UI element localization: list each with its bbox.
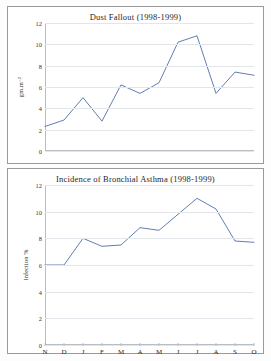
x-tick-mark [102,343,103,346]
dust-fallout-y-axis: 121086420 [22,23,44,151]
x-tick-mark [140,343,141,346]
month-tick-label: J [177,348,180,356]
asthma-chart-panel: Incidence of Bronchial Asthma (1998-1999… [7,168,264,354]
dust-fallout-chart-panel: Dust Fallout (1998-1999) gm.m⁻² 12108642… [7,6,264,164]
month-tick-label: M [118,348,124,356]
gridline [45,23,254,24]
x-tick-mark [178,343,179,346]
gridline [45,66,254,67]
gridline [45,318,254,319]
month-tick-label: S [233,348,237,356]
gridline [45,185,254,186]
gridline [45,130,254,131]
y-tick-label: 4 [22,105,44,112]
y-tick-label: 8 [22,235,44,242]
month-tick-label: A [137,348,142,356]
y-tick-label: 0 [22,148,44,155]
y-tick-label: 10 [22,208,44,215]
gridline [45,44,254,45]
asthma-y-axis: 121086420 [22,185,44,345]
x-tick-mark [83,343,84,346]
gridline [45,87,254,88]
y-tick-label: 6 [22,262,44,269]
x-tick-mark [197,343,198,346]
y-tick-label: 4 [22,288,44,295]
y-tick-label: 10 [22,41,44,48]
dust-fallout-plot [45,23,254,151]
asthma-plot-area: Infection % 121086420 [8,185,263,345]
x-tick-mark [121,343,122,346]
gridline [45,151,254,152]
figure-container: Dust Fallout (1998-1999) gm.m⁻² 12108642… [0,0,271,361]
asthma-plot [45,185,254,345]
gridline [45,238,254,239]
x-tick-mark [235,343,236,346]
x-tick-mark [159,343,160,346]
dust-fallout-title: Dust Fallout (1998-1999) [8,7,263,23]
y-tick-label: 12 [22,20,44,27]
gridline [45,292,254,293]
gridline [45,108,254,109]
x-tick-mark [254,343,255,346]
gridline [45,212,254,213]
gridline [45,265,254,266]
month-tick-label: J [196,348,199,356]
month-tick-label: D [61,348,66,356]
x-tick-mark [64,343,65,346]
y-tick-label: 2 [22,126,44,133]
month-tick-label: F [100,348,104,356]
month-tick-label: M [156,348,162,356]
asthma-title: Incidence of Bronchial Asthma (1998-1999… [8,169,263,185]
y-tick-label: 6 [22,84,44,91]
month-tick-label: O [251,348,256,356]
month-tick-label: N [42,348,47,356]
series-polyline [45,198,254,265]
y-tick-label: 2 [22,315,44,322]
y-tick-label: 0 [22,342,44,349]
y-tick-label: 8 [22,62,44,69]
x-tick-mark [45,343,46,346]
y-tick-label: 12 [22,182,44,189]
dust-fallout-plot-area: gm.m⁻² 121086420 [8,23,263,151]
month-axis: NDJFMAMJJASO [45,346,254,361]
x-tick-mark [216,343,217,346]
month-tick-label: A [213,348,218,356]
month-tick-label: J [82,348,85,356]
series-polyline [45,36,254,127]
